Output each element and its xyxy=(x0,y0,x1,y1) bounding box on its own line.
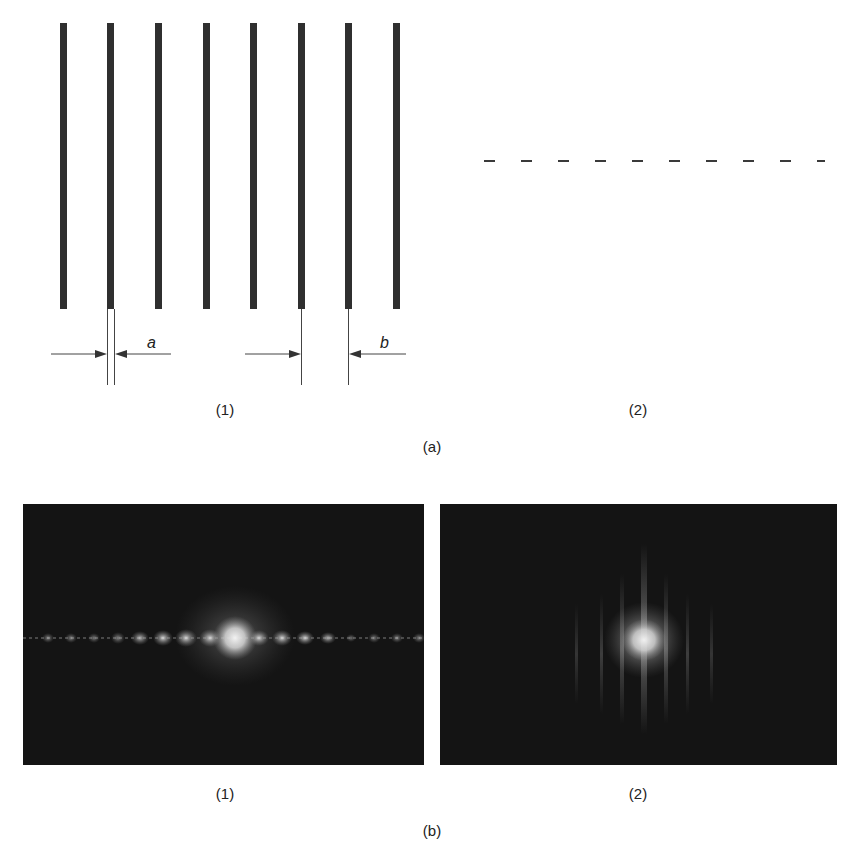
dash-3 xyxy=(558,160,569,162)
dimension-label-b: b xyxy=(380,334,389,352)
caption-b2: (2) xyxy=(629,785,647,802)
caption-a: (a) xyxy=(423,438,441,455)
caption-b: (b) xyxy=(423,822,441,839)
caption-a2: (2) xyxy=(629,401,647,418)
diffraction-pattern-1 xyxy=(23,504,424,765)
dash-2 xyxy=(521,160,532,162)
dash-5 xyxy=(632,160,643,162)
diffraction-spots-2 xyxy=(440,504,837,765)
dimension-label-a: a xyxy=(147,334,156,352)
caption-a1: (1) xyxy=(216,401,234,418)
dash-7 xyxy=(706,160,717,162)
caption-b1: (1) xyxy=(216,785,234,802)
diffraction-pattern-2 xyxy=(440,504,837,765)
dash-4 xyxy=(595,160,606,162)
dash-8 xyxy=(743,160,754,162)
dash-10 xyxy=(817,160,825,162)
dash-6 xyxy=(669,160,680,162)
dash-9 xyxy=(780,160,791,162)
diffraction-spots-1 xyxy=(23,504,424,765)
dash-1 xyxy=(484,160,495,162)
